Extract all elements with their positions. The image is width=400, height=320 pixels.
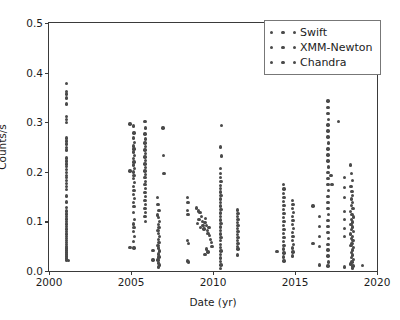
data-point: [144, 195, 147, 198]
data-point: [327, 141, 330, 144]
data-point: [144, 137, 147, 140]
data-point: [327, 165, 330, 168]
data-point: [143, 199, 146, 202]
legend-label: Chandra: [300, 56, 347, 69]
data-point: [161, 126, 164, 129]
data-point: [187, 242, 190, 245]
data-point: [349, 185, 352, 188]
data-point: [132, 240, 135, 243]
data-point: [220, 154, 223, 157]
x-tick: [295, 271, 296, 275]
data-point: [132, 193, 135, 196]
data-point: [219, 167, 222, 170]
data-point: [133, 235, 136, 238]
data-point: [196, 222, 199, 225]
data-point: [65, 96, 68, 99]
data-point: [282, 200, 285, 203]
y-axis-label: Counts/s: [0, 124, 8, 170]
data-point: [236, 247, 239, 250]
y-tick-label: 0.3: [26, 116, 43, 128]
data-point: [343, 227, 346, 230]
data-point: [291, 199, 294, 202]
data-point: [67, 259, 70, 262]
data-point: [329, 174, 332, 177]
data-point: [132, 136, 135, 139]
y-tick: [45, 122, 49, 123]
data-point: [219, 232, 222, 235]
data-point: [326, 243, 329, 246]
data-point: [327, 237, 330, 240]
data-point: [219, 176, 222, 179]
legend-label: Swift: [300, 26, 327, 39]
data-point: [326, 254, 329, 257]
y-tick-label: 0.5: [26, 17, 43, 29]
x-tick-label: 2020: [364, 276, 391, 288]
data-point: [326, 112, 329, 115]
data-point: [132, 201, 135, 204]
data-point: [156, 196, 159, 199]
data-point: [292, 227, 295, 230]
data-point: [326, 201, 329, 204]
x-tick: [131, 271, 132, 275]
legend-item: XMM-Newton: [270, 40, 373, 55]
data-point: [65, 194, 68, 197]
data-point: [326, 183, 329, 186]
data-point: [351, 179, 354, 182]
data-point: [282, 220, 285, 223]
data-point: [208, 234, 211, 237]
data-point: [144, 220, 147, 223]
data-point: [291, 231, 294, 234]
data-point: [361, 264, 364, 267]
data-point: [318, 245, 321, 248]
data-point: [343, 176, 346, 179]
data-point: [318, 215, 321, 218]
x-tick-label: 2015: [282, 276, 309, 288]
data-point: [65, 92, 68, 95]
data-point: [143, 191, 146, 194]
data-point: [282, 259, 285, 262]
legend-marker-icon: [270, 46, 300, 49]
data-point: [210, 241, 213, 244]
data-point: [132, 230, 135, 233]
data-point: [311, 204, 314, 207]
data-point: [210, 245, 213, 248]
y-tick-label: 0.1: [26, 215, 43, 227]
data-point: [186, 201, 189, 204]
data-point: [327, 260, 330, 263]
data-point: [326, 231, 329, 234]
legend-label: XMM-Newton: [300, 41, 373, 54]
data-point: [282, 247, 285, 250]
data-point: [326, 153, 329, 156]
data-point: [132, 246, 135, 249]
data-point: [351, 266, 354, 269]
data-point: [151, 249, 154, 252]
data-point: [318, 225, 321, 228]
data-point: [144, 203, 147, 206]
data-point: [220, 124, 223, 127]
data-point: [282, 192, 285, 195]
data-point: [132, 185, 135, 188]
data-point: [143, 132, 146, 135]
data-point: [144, 187, 147, 190]
data-point: [326, 177, 329, 180]
data-point: [350, 172, 353, 175]
data-point: [343, 235, 346, 238]
data-point: [282, 244, 285, 247]
x-tick-label: 2005: [118, 276, 145, 288]
data-point: [327, 213, 330, 216]
data-point: [282, 251, 285, 254]
data-point: [291, 203, 294, 206]
data-point: [128, 122, 131, 125]
data-point: [133, 181, 136, 184]
data-point: [157, 216, 160, 219]
data-point: [282, 187, 285, 190]
data-point: [282, 240, 285, 243]
data-point: [282, 228, 285, 231]
x-tick-label: 2010: [200, 276, 227, 288]
data-point: [144, 126, 147, 129]
data-point: [132, 205, 135, 208]
data-point: [350, 190, 353, 193]
data-point: [326, 225, 329, 228]
data-point: [219, 180, 222, 183]
data-point: [318, 263, 321, 266]
